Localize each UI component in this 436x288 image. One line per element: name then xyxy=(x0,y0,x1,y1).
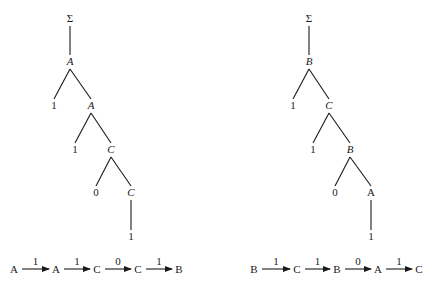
tree-edge xyxy=(350,157,371,186)
diagram-canvas: ΣA1A1C0C1 ΣB1C1B0A1 AACCB1101 BCBAC1101 xyxy=(0,0,436,288)
tree-edge xyxy=(75,113,91,143)
tree-edge xyxy=(335,157,350,186)
tree-node: A xyxy=(66,55,74,67)
tree-edge xyxy=(96,157,111,186)
tree-edge xyxy=(91,113,111,143)
tree-root-sigma: Σ xyxy=(67,12,73,24)
sequence-state: A xyxy=(374,263,382,275)
transition-label: 0 xyxy=(355,255,361,267)
transition-label: 0 xyxy=(115,255,121,267)
sequence-state: C xyxy=(134,263,141,275)
tree-node: A xyxy=(367,186,375,198)
sequence-state: C xyxy=(93,263,100,275)
left-transition-sequence: AACCB1101 xyxy=(10,255,183,275)
sequence-state: A xyxy=(10,263,18,275)
tree-edge xyxy=(313,113,329,143)
transition-label: 1 xyxy=(315,255,321,267)
tree-node: C xyxy=(325,99,333,111)
tree-node: B xyxy=(347,143,354,155)
tree-node: 1 xyxy=(368,230,374,242)
tree-node: 0 xyxy=(93,186,99,198)
tree-edge xyxy=(54,69,70,99)
sequence-state: B xyxy=(175,263,182,275)
left-parse-tree: ΣA1A1C0C1 xyxy=(51,12,135,242)
sequence-state: B xyxy=(333,263,340,275)
right-parse-tree: ΣB1C1B0A1 xyxy=(290,12,375,242)
sequence-state: A xyxy=(52,263,60,275)
tree-node: 1 xyxy=(72,143,78,155)
sequence-state: C xyxy=(415,263,422,275)
right-transition-sequence: BCBAC1101 xyxy=(250,255,422,275)
tree-node: C xyxy=(107,143,115,155)
tree-node: 1 xyxy=(290,99,296,111)
sequence-state: C xyxy=(293,263,300,275)
tree-edge xyxy=(293,69,309,99)
tree-node: 1 xyxy=(310,143,316,155)
tree-node: 1 xyxy=(128,230,134,242)
tree-node: 1 xyxy=(51,99,57,111)
transition-label: 1 xyxy=(33,255,39,267)
transition-label: 1 xyxy=(273,255,279,267)
tree-edge xyxy=(111,157,131,186)
tree-root-sigma: Σ xyxy=(306,12,312,24)
transition-label: 1 xyxy=(74,255,80,267)
transition-label: 1 xyxy=(396,255,402,267)
sequence-state: B xyxy=(250,263,257,275)
transition-label: 1 xyxy=(156,255,162,267)
tree-edge xyxy=(70,69,91,99)
tree-node: C xyxy=(127,186,135,198)
tree-edge xyxy=(329,113,350,143)
tree-node: 0 xyxy=(332,186,338,198)
tree-node: B xyxy=(306,55,313,67)
tree-edge xyxy=(309,69,329,99)
tree-node: A xyxy=(87,99,95,111)
